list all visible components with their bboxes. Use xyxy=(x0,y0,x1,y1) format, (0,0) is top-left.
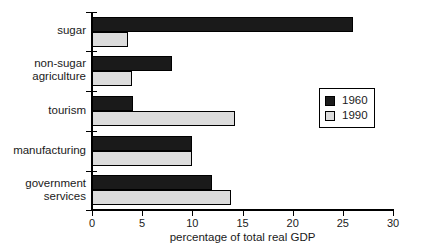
category-label-line: agriculture xyxy=(0,70,86,83)
bar-tourism-1960 xyxy=(92,96,133,111)
x-axis-tick-label: 30 xyxy=(378,217,408,230)
x-axis-tick xyxy=(92,211,93,216)
x-axis-tick-label: 5 xyxy=(127,217,157,230)
legend-label: 1990 xyxy=(342,109,368,122)
x-axis-title: percentage of total real GDP xyxy=(92,231,393,244)
bar-chart: sugar non-sugar agriculture tourism manu… xyxy=(0,0,424,248)
x-axis-tick xyxy=(343,211,344,216)
category-label-line: non-sugar xyxy=(0,57,86,70)
bar-non-sugar-agriculture-1960 xyxy=(92,56,172,71)
bar-manufacturing-1960 xyxy=(92,136,192,151)
legend: 1960 1990 xyxy=(319,88,375,128)
category-label-non-sugar-agriculture: non-sugar agriculture xyxy=(0,57,86,83)
bar-sugar-1990 xyxy=(92,32,128,47)
legend-swatch-icon xyxy=(325,111,335,121)
legend-label: 1960 xyxy=(342,94,368,107)
category-label-line: manufacturing xyxy=(0,144,86,157)
x-axis-tick-label: 0 xyxy=(77,217,107,230)
x-axis-tick xyxy=(192,211,193,216)
bar-tourism-1990 xyxy=(92,111,235,126)
x-axis-tick-label: 20 xyxy=(278,217,308,230)
x-axis-tick xyxy=(293,211,294,216)
bar-non-sugar-agriculture-1990 xyxy=(92,71,132,86)
x-axis-tick-label: 25 xyxy=(328,217,358,230)
category-label-line: government xyxy=(0,177,86,190)
bar-manufacturing-1990 xyxy=(92,151,192,166)
x-axis-tick-label: 15 xyxy=(228,217,258,230)
bar-government-services-1990 xyxy=(92,190,231,205)
category-label-government-services: government services xyxy=(0,177,86,203)
bar-sugar-1960 xyxy=(92,17,353,32)
x-axis-tick-label: 10 xyxy=(177,217,207,230)
legend-item-1960: 1960 xyxy=(325,93,368,108)
x-axis-tick xyxy=(142,211,143,216)
category-label-line: services xyxy=(0,190,86,203)
x-axis-tick xyxy=(243,211,244,216)
bar-government-services-1960 xyxy=(92,175,212,190)
legend-swatch-icon xyxy=(325,96,335,106)
category-label-line: tourism xyxy=(0,104,86,117)
legend-item-1990: 1990 xyxy=(325,108,368,123)
x-axis-tick xyxy=(393,211,394,216)
category-label-line: sugar xyxy=(0,24,86,37)
